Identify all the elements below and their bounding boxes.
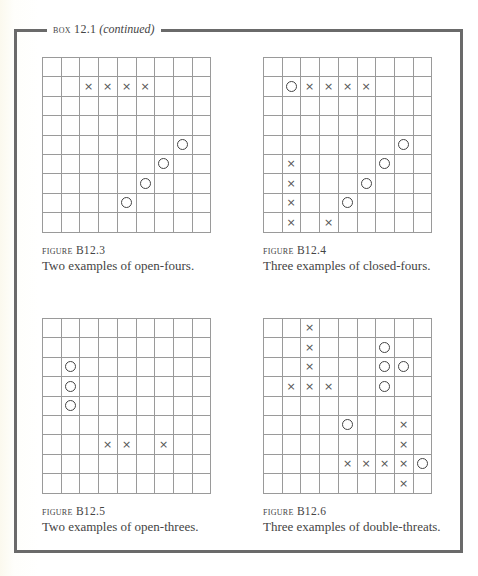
figure-label: FIGURE B12.3 (42, 242, 194, 258)
board-cell: × (98, 76, 118, 97)
board-cell (42, 454, 62, 474)
board-cell (413, 454, 432, 474)
board-cell (319, 318, 339, 338)
board-cell (357, 473, 376, 494)
o-mark-icon (398, 139, 409, 150)
board-cell (61, 434, 80, 455)
o-mark-icon (121, 197, 132, 208)
figure-label: FIGURE B12.5 (42, 503, 198, 519)
board-cell (263, 473, 283, 494)
board-cell (79, 357, 99, 377)
board-cell (98, 154, 118, 174)
board-cell (300, 212, 320, 233)
board-cell (136, 415, 155, 435)
board-cell (136, 376, 155, 397)
board-cell (338, 193, 358, 213)
board-cell (319, 396, 339, 416)
board-cell (79, 57, 99, 77)
x-mark-icon: × (343, 81, 352, 92)
board-grid: ××× (42, 318, 210, 493)
board-cell (282, 135, 301, 155)
board-cell: × (117, 76, 137, 97)
board-cell (61, 376, 80, 397)
o-mark-icon (286, 81, 297, 92)
board-cell (117, 415, 137, 435)
board-cell (319, 473, 339, 494)
board-cell (136, 454, 155, 474)
board-cell (173, 96, 193, 116)
board-cell (319, 96, 339, 116)
board-cell (338, 115, 358, 136)
board-cell (98, 396, 118, 416)
board-cell (319, 135, 339, 155)
board-cell (173, 115, 193, 136)
board-cell (375, 434, 395, 455)
board-cell (357, 376, 376, 397)
figure-caption: FIGURE B12.5 Two examples of open-threes… (42, 503, 198, 535)
board-cell (357, 357, 376, 377)
board-cell (136, 473, 155, 494)
board-cell (375, 57, 395, 77)
board-cell (61, 396, 80, 416)
board-cell (173, 212, 193, 233)
board-cell (375, 135, 395, 155)
board-cell (375, 173, 395, 194)
board-cell (98, 473, 118, 494)
board-cell (263, 318, 283, 338)
board-cell (61, 318, 80, 338)
board-cell (282, 434, 301, 455)
board-cell (319, 415, 339, 435)
board-cell (117, 173, 137, 194)
board-cell (413, 415, 432, 435)
board-cell (173, 135, 193, 155)
board-cell (394, 357, 414, 377)
board-cell (192, 135, 211, 155)
board-cell (263, 76, 283, 97)
x-mark-icon: × (399, 458, 408, 469)
board-cell (154, 473, 174, 494)
board-cell (98, 337, 118, 358)
board-cell (413, 135, 432, 155)
board-cell (338, 376, 358, 397)
board-cell (300, 473, 320, 494)
board-cell: × (300, 318, 320, 338)
board-cell (192, 376, 211, 397)
board-cell (394, 76, 414, 97)
x-mark-icon: × (361, 81, 370, 92)
board-cell (282, 473, 301, 494)
board-cell (79, 454, 99, 474)
board-cell (154, 415, 174, 435)
board-grid: ××××××××××××× (263, 318, 431, 493)
figure-caption: FIGURE B12.6 Three examples of double-th… (263, 503, 441, 535)
board-cell (282, 115, 301, 136)
figure-description: Three examples of closed-fours. (263, 258, 431, 274)
board-cell (136, 96, 155, 116)
board-cell (42, 434, 62, 455)
board-cell (263, 212, 283, 233)
board-cell (413, 96, 432, 116)
board-cell (98, 135, 118, 155)
board-cell (117, 376, 137, 397)
board-cell (300, 154, 320, 174)
o-mark-icon (379, 381, 390, 392)
board-cell: × (319, 76, 339, 97)
board-cell (263, 173, 283, 194)
board-cell (192, 454, 211, 474)
board-cell (300, 193, 320, 213)
x-mark-icon: × (103, 81, 112, 92)
x-mark-icon: × (103, 439, 112, 450)
board-cell (136, 357, 155, 377)
x-mark-icon: × (305, 81, 314, 92)
board-cell: × (282, 193, 301, 213)
board-cell: × (300, 337, 320, 358)
board-cell (61, 76, 80, 97)
x-mark-icon: × (122, 439, 131, 450)
board-cell (61, 135, 80, 155)
board-cell (192, 96, 211, 116)
x-mark-icon: × (286, 178, 295, 189)
board-cell (338, 434, 358, 455)
board-cell (319, 454, 339, 474)
board-cell (357, 115, 376, 136)
board-cell (117, 337, 137, 358)
board-cell (338, 337, 358, 358)
